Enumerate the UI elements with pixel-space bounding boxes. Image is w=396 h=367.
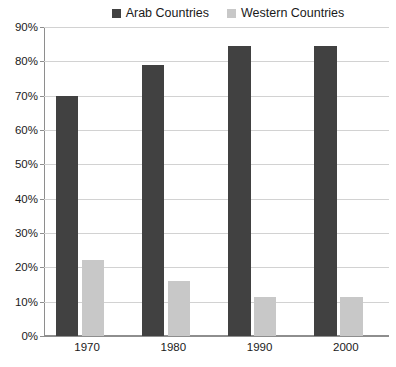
bar <box>314 46 336 336</box>
plot-area <box>44 27 389 336</box>
x-tick-label: 1980 <box>130 341 216 353</box>
bar <box>82 260 104 336</box>
gridline <box>44 336 389 337</box>
bar <box>168 281 190 336</box>
bar-group <box>130 27 216 336</box>
y-tick-label: 40% <box>15 193 38 205</box>
x-tick-label: 1990 <box>217 341 303 353</box>
bar-groups <box>44 27 389 336</box>
bar <box>254 297 276 336</box>
y-tick-label: 60% <box>15 124 38 136</box>
chart-legend: Arab Countries Western Countries <box>0 4 396 22</box>
y-tick-label: 10% <box>15 296 38 308</box>
x-tick-label: 2000 <box>303 341 389 353</box>
x-tick-label: 1970 <box>44 341 130 353</box>
bar-group <box>303 27 389 336</box>
legend-swatch-icon <box>112 9 121 18</box>
y-tick-label: 30% <box>15 227 38 239</box>
y-tick-label: 20% <box>15 261 38 273</box>
y-tick-label: 80% <box>15 55 38 67</box>
bar <box>56 96 78 336</box>
bar <box>340 297 362 336</box>
bar-group <box>44 27 130 336</box>
legend-entry-western-countries: Western Countries <box>227 7 344 20</box>
x-axis-labels: 1970198019902000 <box>44 341 389 353</box>
y-tick-label: 0% <box>21 330 38 342</box>
y-tick-label: 50% <box>15 158 38 170</box>
bar <box>142 65 164 336</box>
legend-label: Western Countries <box>241 7 344 20</box>
bar-chart: Arab Countries Western Countries 0%10%20… <box>0 0 396 367</box>
legend-entry-arab-countries: Arab Countries <box>112 7 209 20</box>
legend-swatch-icon <box>227 9 236 18</box>
y-tick-mark <box>40 336 44 337</box>
y-tick-label: 70% <box>15 90 38 102</box>
bar-group <box>217 27 303 336</box>
legend-label: Arab Countries <box>126 7 209 20</box>
bar <box>228 46 250 336</box>
y-tick-label: 90% <box>15 21 38 33</box>
